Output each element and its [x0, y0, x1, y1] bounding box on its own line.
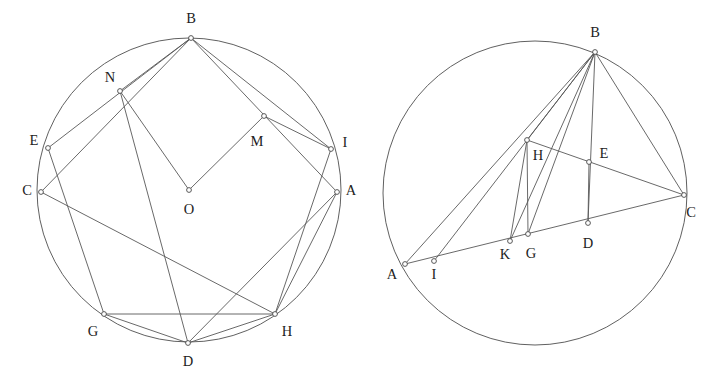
left-construction-segment-DH [188, 314, 275, 343]
right-construction-label-E: E [600, 145, 609, 161]
left-construction-vertex-C[interactable] [39, 190, 44, 195]
left-construction-vertex-D[interactable] [186, 341, 191, 346]
left-construction-label-H: H [282, 323, 293, 339]
right-construction-segment-HK [510, 140, 527, 241]
right-construction-vertex-A[interactable] [403, 262, 408, 267]
left-construction-label-C: C [22, 182, 32, 198]
left-construction-vertex-G[interactable] [102, 312, 107, 317]
right-construction-vertex-K[interactable] [508, 239, 513, 244]
right-construction-vertex-E[interactable] [587, 160, 592, 165]
left-construction-vertex-M[interactable] [262, 114, 267, 119]
left-construction-vertex-N[interactable] [118, 89, 123, 94]
left-construction-segment-BN [120, 38, 191, 91]
left-construction-label-G: G [88, 323, 99, 339]
right-construction-segment-ED [588, 162, 589, 223]
left-construction-group: BNECGDHAIMO [22, 10, 357, 369]
right-construction-group: BHECDGKIA [383, 24, 696, 345]
geometry-svg-canvas: BNECGDHAIMO BHECDGKIA [0, 0, 715, 387]
right-construction-segment-HG [527, 140, 528, 234]
left-construction-segment-OM [189, 116, 264, 190]
left-construction-vertex-O[interactable] [187, 188, 192, 193]
left-construction-label-E: E [30, 132, 39, 148]
left-construction-segment-IH [275, 149, 331, 314]
right-construction-vertex-B[interactable] [593, 50, 598, 55]
left-construction-label-I: I [343, 134, 348, 150]
right-construction-vertex-G[interactable] [526, 232, 531, 237]
right-construction-vertex-H[interactable] [525, 138, 530, 143]
left-construction-vertex-E[interactable] [46, 146, 51, 151]
right-construction-label-A: A [387, 266, 398, 282]
right-construction-label-K: K [500, 246, 511, 262]
left-construction-vertex-B[interactable] [189, 36, 194, 41]
right-construction-vertex-D[interactable] [586, 221, 591, 226]
left-construction-label-A: A [346, 182, 357, 198]
right-construction-label-C: C [686, 204, 696, 220]
left-construction-segment-NO [120, 91, 189, 190]
left-construction-label-D: D [183, 353, 193, 369]
right-construction-segment-GB [528, 52, 595, 234]
left-construction-segment-EG [48, 148, 104, 314]
right-construction-label-B: B [590, 24, 600, 40]
right-construction-label-H: H [533, 147, 544, 163]
right-construction-vertex-I[interactable] [432, 259, 437, 264]
right-construction-segment-BD [588, 52, 595, 223]
left-construction-label-O: O [184, 201, 194, 217]
right-construction-label-I: I [432, 266, 437, 282]
left-construction-label-M: M [251, 133, 264, 149]
left-construction-segment-ND [120, 91, 188, 343]
left-construction-segment-CH [41, 192, 275, 314]
left-construction-segment-MI [264, 116, 331, 149]
left-construction-vertex-I[interactable] [329, 147, 334, 152]
left-construction-segment-GD [104, 314, 188, 343]
geometry-figure: BNECGDHAIMO BHECDGKIA [0, 0, 715, 387]
left-construction-label-B: B [186, 10, 196, 26]
left-construction-label-N: N [105, 69, 116, 85]
right-construction-vertex-C[interactable] [682, 193, 687, 198]
right-construction-segment-AC [405, 195, 684, 264]
left-construction-segment-BC [41, 38, 191, 192]
right-construction-segment-AB [405, 52, 595, 264]
left-construction-vertex-A[interactable] [335, 190, 340, 195]
right-construction-label-G: G [526, 245, 537, 261]
right-construction-label-D: D [583, 235, 593, 251]
left-construction-vertex-H[interactable] [273, 312, 278, 317]
right-construction-circle [383, 41, 687, 345]
left-construction-segment-DA [188, 192, 337, 343]
